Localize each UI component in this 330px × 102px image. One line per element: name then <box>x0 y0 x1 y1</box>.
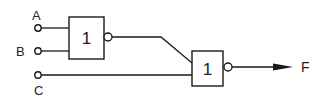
input-c: C <box>34 72 192 98</box>
input-a-label: A <box>32 8 41 23</box>
output-f-label: F <box>301 59 310 75</box>
input-b: B <box>16 44 69 59</box>
input-a-terminal <box>35 25 41 31</box>
gate-1-inversion-bubble <box>104 33 112 41</box>
input-c-terminal <box>35 72 41 78</box>
input-b-label: B <box>16 44 25 59</box>
output-f: F <box>232 59 310 75</box>
input-b-terminal <box>35 48 41 54</box>
gate-1-symbol: 1 <box>82 29 91 48</box>
gate-1: 1 <box>69 17 112 59</box>
input-a: A <box>32 8 69 31</box>
logic-circuit-diagram: A B C 1 1 F <box>0 0 330 102</box>
gate-2-symbol: 1 <box>203 60 212 79</box>
input-c-label: C <box>34 83 43 98</box>
wire-g1-to-g2 <box>112 37 192 63</box>
gate-2: 1 <box>192 51 232 86</box>
gate-2-inversion-bubble <box>224 63 232 71</box>
arrow-right-icon <box>273 64 293 71</box>
